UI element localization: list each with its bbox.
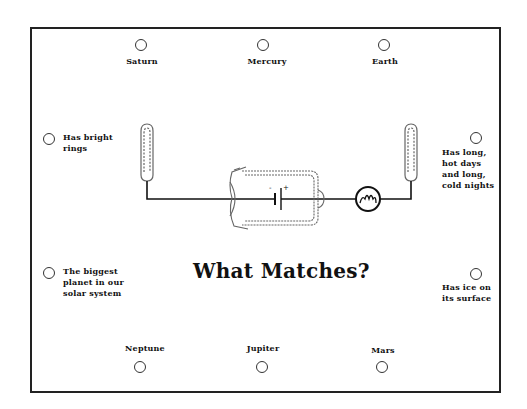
page-title: What Matches? <box>193 259 370 283</box>
radio-neptune[interactable] <box>134 361 146 373</box>
left-clip-probe-icon <box>141 124 153 181</box>
light-bulb-icon <box>356 187 380 211</box>
label-mars: Mars <box>371 345 395 355</box>
battery-holder-icon <box>230 167 324 229</box>
battery-minus-label: - <box>269 184 272 192</box>
radio-mars[interactable] <box>376 361 388 373</box>
right-clip-probe-icon <box>405 124 417 181</box>
battery-symbol-icon <box>275 188 281 210</box>
battery-plus-label: + <box>283 184 289 192</box>
label-jupiter: Jupiter <box>247 343 280 353</box>
label-neptune: Neptune <box>125 343 165 353</box>
radio-jupiter[interactable] <box>256 361 268 373</box>
